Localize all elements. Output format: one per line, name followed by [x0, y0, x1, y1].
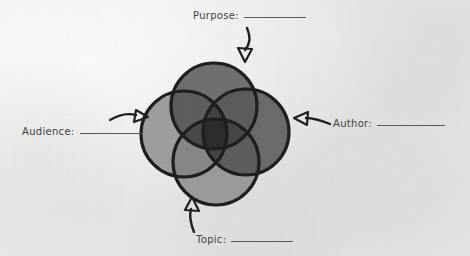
label-author: Author:: [333, 118, 445, 129]
worksheet-page: Purpose: Author: Audience: Topic:: [0, 0, 470, 256]
purpose-arrow: [238, 28, 252, 62]
author-arrow: [294, 112, 330, 125]
label-audience: Audience:: [22, 126, 142, 137]
label-audience-text: Audience:: [22, 126, 75, 137]
audience-arrow: [110, 110, 148, 122]
label-author-text: Author:: [333, 118, 372, 129]
label-author-blank[interactable]: [377, 125, 445, 126]
label-audience-blank[interactable]: [80, 133, 142, 134]
label-topic-text: Topic:: [196, 234, 226, 245]
venn-fills: [141, 63, 289, 205]
label-topic: Topic:: [196, 234, 293, 245]
label-purpose-text: Purpose:: [193, 10, 239, 21]
label-purpose: Purpose:: [193, 10, 306, 21]
label-topic-blank[interactable]: [231, 241, 293, 242]
label-purpose-blank[interactable]: [244, 17, 306, 18]
